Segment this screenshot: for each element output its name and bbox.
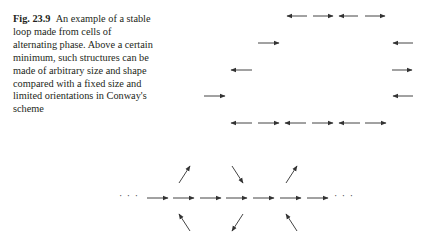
arrow-diagonal-icon — [286, 214, 297, 231]
stable-loop-diagram — [204, 16, 413, 123]
arrow-diagonal-icon — [179, 214, 190, 231]
trailing-ellipsis: · · · — [334, 190, 354, 201]
phase-arrow-diagram — [0, 0, 423, 243]
arrow-diagonal-icon — [179, 166, 190, 183]
arrow-diagonal-icon — [286, 166, 297, 183]
arrow-diagonal-icon — [232, 166, 243, 183]
leading-ellipsis: · · · — [119, 190, 139, 201]
chain-diagram — [147, 166, 328, 231]
arrow-diagonal-icon — [232, 214, 243, 231]
